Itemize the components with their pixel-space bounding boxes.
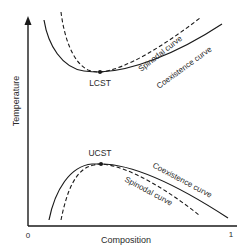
phase-diagram: Composition Temperature 0 1 LCST Spinoda… — [0, 0, 249, 252]
x-axis-label: Composition — [101, 235, 151, 245]
x-tick-1: 1 — [229, 230, 234, 239]
y-axis-arrow-icon — [25, 16, 32, 25]
x-tick-0: 0 — [26, 231, 31, 240]
ucst-point — [99, 162, 103, 166]
y-axis-label: Temperature — [11, 76, 21, 127]
lcst-point — [98, 70, 102, 74]
lcst-label: LCST — [89, 78, 111, 88]
ucst-label: UCST — [88, 148, 111, 158]
